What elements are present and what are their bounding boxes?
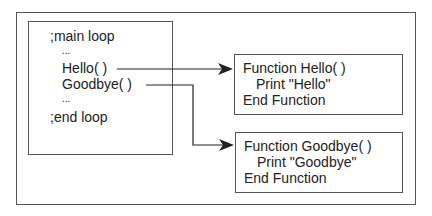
connector-arrows (0, 0, 432, 216)
goodbye-connector (146, 85, 224, 145)
